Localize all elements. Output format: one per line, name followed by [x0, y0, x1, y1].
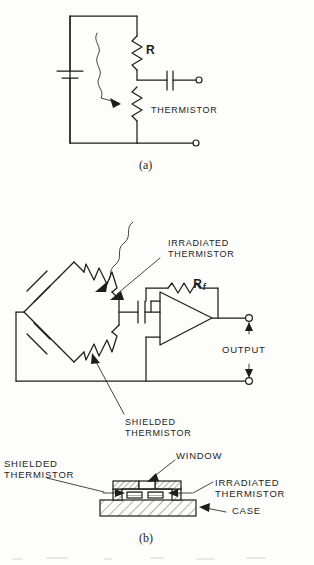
feedback-resistor-letter: R [193, 277, 203, 291]
cover-flange-left-hatch [113, 481, 139, 489]
label-case: CASE [232, 505, 261, 516]
window-pane [139, 481, 155, 489]
panel-a-caption: (a) [139, 158, 152, 173]
flake-left-hatch [127, 492, 142, 498]
scan-artifact [12, 558, 22, 560]
battery-symbol-b-lower [27, 323, 50, 354]
label-shielded-thermistor-b: SHIELDED THERMISTOR [125, 417, 192, 438]
capacitor-symbol-a [167, 71, 196, 90]
leader-irradiated-xsec [193, 482, 213, 493]
label-irradiated-thermistor-c: IRRADIATED THERMISTOR [215, 477, 285, 499]
feedback-resistor-subscript: f [203, 282, 207, 292]
label-shielded-thermistor-c: SHIELDED THERMISTOR [4, 458, 74, 480]
leader-case [199, 503, 226, 512]
output-terminal-top-a [196, 77, 202, 83]
radiation-arrow-b [95, 222, 133, 292]
panel-a-circuit [57, 16, 202, 146]
scan-artifact [46, 557, 68, 559]
battery-symbol-b-upper [27, 271, 50, 302]
battery-symbol-a [57, 16, 83, 143]
cover-flange-right-hatch [155, 481, 181, 489]
label-thermistor-a: THERMISTOR [151, 105, 218, 116]
label-feedback-resistor: Rf [176, 263, 207, 306]
bridge-diamond [24, 262, 119, 362]
radiation-arrow-a [96, 33, 121, 108]
figure-canvas: (a) R THERMISTOR IRRADIATED THERMISTOR S… [0, 0, 314, 565]
leader-window [147, 460, 175, 482]
label-output: OUTPUT [222, 344, 266, 355]
thermistor-symbol-a [132, 87, 142, 143]
label-window: WINDOW [176, 450, 222, 461]
output-terminal-bottom-a [193, 140, 199, 146]
scan-artifact [196, 558, 214, 560]
capacitor-symbol-b [138, 301, 160, 323]
leader-shielded-thermistor [91, 353, 124, 414]
scan-artifact [104, 558, 112, 560]
case-base-hatch [100, 500, 196, 516]
label-resistor-r: R [146, 43, 156, 57]
scan-artifact [246, 557, 266, 559]
scan-artifact [150, 557, 164, 559]
panel-b-caption: (b) [139, 531, 153, 546]
label-irradiated-thermistor-b: IRRADIATED THERMISTOR [168, 238, 235, 259]
output-terminal-bottom-b [246, 378, 253, 385]
output-terminal-top-b [246, 315, 253, 322]
leader-irradiated-thermistor [110, 258, 160, 300]
flake-right-hatch [148, 492, 163, 498]
resistor-r-symbol [132, 36, 142, 80]
